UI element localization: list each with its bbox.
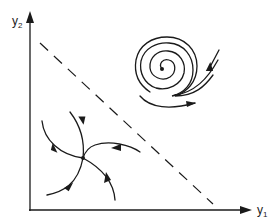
unstable-spiral: [136, 37, 219, 107]
y-axis-label: y2: [12, 14, 23, 30]
x-axis-arrow-icon: [240, 206, 252, 214]
node-trajectory-left: [42, 121, 83, 158]
node-arrow-icon: [111, 144, 121, 151]
node-arrow-icon: [78, 115, 86, 125]
phase-plane-diagram: y2 y1: [0, 0, 280, 223]
stable-node: [42, 112, 140, 200]
node-arrow-icon: [63, 182, 74, 192]
node-trajectory-lower-left: [47, 158, 83, 195]
node-trajectory-right: [83, 143, 140, 158]
separatrix-dashed-line: [40, 43, 213, 204]
spiral-trajectory-inner: [141, 43, 218, 96]
x-axis-label: y1: [257, 203, 268, 219]
y-axis-arrow-icon: [26, 11, 34, 23]
spiral-exit-line: [210, 50, 219, 67]
spiral-arrow-icon: [186, 101, 196, 107]
